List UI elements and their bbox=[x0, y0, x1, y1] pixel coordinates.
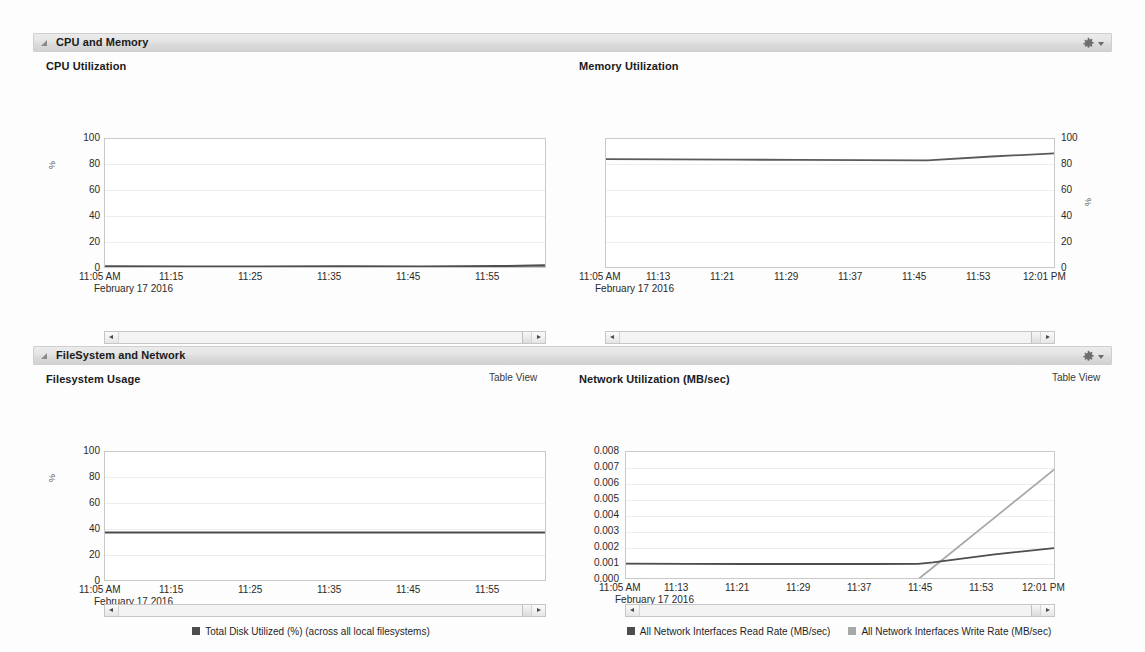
x-tick: 11:25 bbox=[238, 271, 262, 282]
x-tick: 11:15 bbox=[159, 271, 183, 282]
chart-title: Memory Utilization bbox=[579, 60, 1099, 72]
legend-label: All Network Interfaces Write Rate (MB/se… bbox=[861, 626, 1051, 637]
collapse-triangle-icon[interactable] bbox=[41, 40, 47, 46]
collapse-triangle-icon[interactable] bbox=[41, 353, 47, 359]
legend-item[interactable]: Total Disk Utilized (%) (across all loca… bbox=[192, 626, 430, 637]
plot-canvas-filesystem bbox=[104, 451, 546, 581]
panel-filesystem-and-network: FileSystem and Network Filesystem Usage … bbox=[33, 346, 1112, 365]
x-tick: 11:13 bbox=[646, 271, 670, 282]
series-lines-cpu bbox=[105, 139, 546, 268]
panel-header-cpu-and-memory[interactable]: CPU and Memory bbox=[33, 33, 1112, 52]
chevron-down-icon[interactable] bbox=[1098, 355, 1104, 359]
y-tick: 0 bbox=[1061, 262, 1101, 273]
x-axis-date-label: February 17 2016 bbox=[94, 283, 173, 294]
legend-item[interactable]: All Network Interfaces Write Rate (MB/se… bbox=[848, 626, 1051, 637]
cpu-chart-scrollbar[interactable] bbox=[104, 331, 546, 344]
x-tick: 11:45 bbox=[908, 582, 932, 593]
panel-settings-menu[interactable] bbox=[1082, 36, 1104, 51]
scroll-left-arrow-icon[interactable] bbox=[105, 332, 119, 343]
y-tick: 80 bbox=[60, 158, 100, 169]
y-axis-unit: % bbox=[1083, 198, 1093, 206]
panel-title: CPU and Memory bbox=[56, 36, 148, 48]
panel-settings-menu[interactable] bbox=[1082, 349, 1104, 364]
legend-network: All Network Interfaces Read Rate (MB/sec… bbox=[589, 623, 1089, 639]
filesystem-chart-scrollbar[interactable] bbox=[104, 604, 546, 617]
scroll-right-arrow-icon[interactable] bbox=[1040, 605, 1054, 616]
x-tick: 11:05 AM bbox=[579, 271, 621, 282]
legend-filesystem: Total Disk Utilized (%) (across all loca… bbox=[76, 623, 546, 639]
gear-icon bbox=[1082, 37, 1095, 50]
y-tick: 40 bbox=[1061, 210, 1101, 221]
plot-area-filesystem: % 100 80 60 40 20 0 11:05 AM 11:15 bbox=[46, 385, 546, 590]
x-tick: 11:29 bbox=[774, 271, 798, 282]
legend-item[interactable]: All Network Interfaces Read Rate (MB/sec… bbox=[627, 626, 831, 637]
x-tick: 11:13 bbox=[664, 582, 688, 593]
chart-title: Filesystem Usage bbox=[46, 373, 546, 385]
series-lines-memory bbox=[606, 139, 1055, 268]
chart-memory-utilization: Memory Utilization 100 80 60 40 20 0 % bbox=[579, 60, 1099, 277]
x-tick: 11:25 bbox=[238, 584, 262, 595]
plot-canvas-cpu bbox=[104, 138, 546, 268]
x-tick: 11:05 AM bbox=[79, 271, 121, 282]
plot-canvas-network bbox=[625, 451, 1055, 579]
y-tick: 0.004 bbox=[579, 509, 619, 520]
y-tick: 20 bbox=[60, 549, 100, 560]
x-tick: 11:37 bbox=[847, 582, 871, 593]
y-tick: 40 bbox=[60, 523, 100, 534]
memory-chart-scrollbar[interactable] bbox=[605, 331, 1055, 344]
legend-label: Total Disk Utilized (%) (across all loca… bbox=[205, 626, 430, 637]
y-tick: 0.008 bbox=[579, 445, 619, 456]
x-axis-date-label: February 17 2016 bbox=[595, 283, 674, 294]
x-tick: 11:21 bbox=[710, 271, 734, 282]
y-tick: 60 bbox=[60, 184, 100, 195]
chart-title: CPU Utilization bbox=[46, 60, 546, 72]
x-tick: 11:29 bbox=[786, 582, 810, 593]
y-tick: 0.005 bbox=[579, 493, 619, 504]
x-tick: 11:45 bbox=[396, 271, 420, 282]
y-tick: 80 bbox=[1061, 158, 1101, 169]
scroll-right-arrow-icon[interactable] bbox=[1040, 332, 1054, 343]
y-tick: 40 bbox=[60, 210, 100, 221]
series-lines-network bbox=[626, 452, 1055, 579]
y-tick: 20 bbox=[60, 236, 100, 247]
scroll-left-arrow-icon[interactable] bbox=[105, 605, 119, 616]
chevron-down-icon[interactable] bbox=[1098, 42, 1104, 46]
panel-cpu-and-memory: CPU and Memory CPU Utilization % 100 80 … bbox=[33, 33, 1112, 52]
legend-swatch-icon bbox=[848, 627, 856, 635]
x-tick: 11:35 bbox=[317, 271, 341, 282]
plot-area-cpu: % 100 80 60 40 20 0 bbox=[46, 72, 546, 277]
y-tick: 100 bbox=[60, 445, 100, 456]
y-axis-unit: % bbox=[47, 474, 57, 482]
scroll-left-arrow-icon[interactable] bbox=[606, 332, 620, 343]
x-tick: 11:45 bbox=[902, 271, 926, 282]
panel-title: FileSystem and Network bbox=[56, 349, 185, 361]
legend-swatch-icon bbox=[627, 627, 635, 635]
y-tick: 0.006 bbox=[579, 477, 619, 488]
y-axis-unit: % bbox=[47, 161, 57, 169]
x-tick: 11:35 bbox=[317, 584, 341, 595]
x-tick: 11:15 bbox=[159, 584, 183, 595]
y-tick: 0.002 bbox=[579, 541, 619, 552]
x-tick: 11:05 AM bbox=[599, 582, 641, 593]
y-tick: 0.003 bbox=[579, 525, 619, 536]
scroll-right-arrow-icon[interactable] bbox=[531, 605, 545, 616]
chart-cpu-utilization: CPU Utilization % 100 80 60 40 20 0 bbox=[46, 60, 546, 277]
panel-header-filesystem-and-network[interactable]: FileSystem and Network bbox=[33, 346, 1112, 365]
dashboard-page: CPU and Memory CPU Utilization % 100 80 … bbox=[0, 0, 1145, 652]
y-tick: 60 bbox=[60, 497, 100, 508]
scroll-left-arrow-icon[interactable] bbox=[626, 605, 640, 616]
plot-area-memory: 100 80 60 40 20 0 % 11:05 AM 11:13 11:21… bbox=[579, 72, 1099, 277]
y-tick: 0.007 bbox=[579, 461, 619, 472]
network-chart-scrollbar[interactable] bbox=[625, 604, 1055, 617]
series-lines-filesystem bbox=[105, 452, 546, 581]
x-tick: 11:53 bbox=[966, 271, 990, 282]
y-tick: 20 bbox=[1061, 236, 1101, 247]
x-tick: 12:01 PM bbox=[1022, 582, 1065, 593]
chart-filesystem-usage: Filesystem Usage % 100 80 60 40 20 0 bbox=[46, 373, 546, 590]
scroll-right-arrow-icon[interactable] bbox=[531, 332, 545, 343]
x-tick: 11:05 AM bbox=[79, 584, 121, 595]
x-tick: 11:55 bbox=[475, 584, 499, 595]
y-tick: 80 bbox=[60, 471, 100, 482]
y-tick: 0.001 bbox=[579, 557, 619, 568]
y-tick: 100 bbox=[60, 132, 100, 143]
